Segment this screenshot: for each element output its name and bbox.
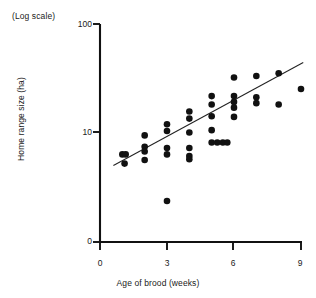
data-point	[186, 156, 193, 163]
plot-area	[0, 0, 316, 298]
data-point	[208, 127, 215, 134]
data-point	[253, 73, 260, 80]
data-point	[231, 93, 238, 100]
data-points-group	[119, 70, 304, 204]
data-point	[298, 86, 305, 93]
data-point	[231, 74, 238, 81]
axis-group	[93, 24, 302, 250]
data-point	[186, 145, 193, 152]
data-point	[231, 114, 238, 121]
data-point	[224, 139, 231, 146]
data-point	[275, 101, 282, 108]
data-point	[141, 148, 148, 155]
data-point	[186, 108, 193, 115]
data-point	[186, 115, 193, 122]
data-point	[208, 93, 215, 100]
scatter-chart: (Log scale) Home range size (ha) Age of …	[0, 0, 316, 298]
data-point	[121, 160, 128, 167]
data-point	[186, 129, 193, 136]
data-point	[164, 198, 171, 205]
data-point	[122, 151, 129, 158]
data-point	[231, 104, 238, 111]
data-point	[164, 128, 171, 135]
data-point	[141, 157, 148, 164]
data-point	[275, 70, 282, 77]
data-point	[253, 100, 260, 107]
data-point	[208, 113, 215, 120]
data-point	[141, 132, 148, 139]
data-point	[253, 94, 260, 101]
data-point	[164, 145, 171, 152]
data-point	[231, 99, 238, 106]
data-point	[208, 101, 215, 108]
data-point	[164, 151, 171, 158]
data-point	[164, 121, 171, 128]
